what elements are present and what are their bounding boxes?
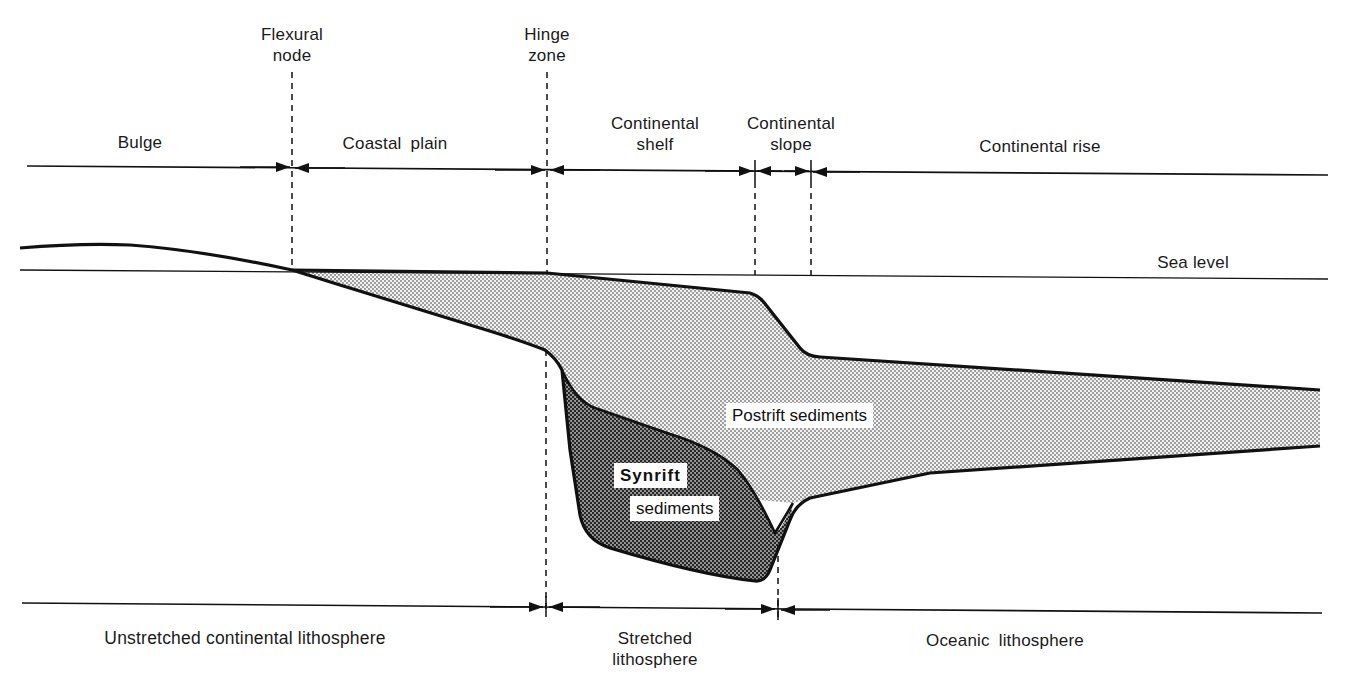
hinge-zone-label-line2: zone xyxy=(517,45,577,66)
synrift-label-line2: sediments xyxy=(630,496,719,521)
sea-level-label: Sea level xyxy=(1148,252,1238,273)
top-zone-line xyxy=(27,166,1328,175)
stretched-lithosphere-line2: lithosphere xyxy=(590,649,720,670)
zone-label-continental-slope: Continental slope xyxy=(726,113,856,155)
zone-label-bulge: Bulge xyxy=(100,132,180,153)
zone-label-coastal-plain: Coastal plain xyxy=(320,133,470,154)
continental-slope-text: Continental slope xyxy=(736,113,846,155)
margin-cross-section-diagram xyxy=(0,0,1348,694)
zone-label-stretched-lithosphere: Stretched lithosphere xyxy=(590,628,720,670)
postrift-sediments-label: Postrift sediments xyxy=(726,403,873,428)
postrift-sediments-area xyxy=(292,270,1320,503)
zone-label-unstretched-lithosphere: Unstretched continental lithosphere xyxy=(100,628,390,649)
zone-label-oceanic-lithosphere: Oceanic lithosphere xyxy=(905,630,1105,651)
zone-label-continental-shelf: Continental shelf xyxy=(590,113,720,155)
flexural-node-label-line1: Flexural xyxy=(252,24,332,45)
synrift-label-line1: Synrift xyxy=(614,463,687,488)
flexural-node-label: Flexural node xyxy=(252,24,332,66)
stretched-lithosphere-line1: Stretched xyxy=(590,628,720,649)
continental-shelf-text: Continental shelf xyxy=(600,113,710,155)
flexural-node-label-line2: node xyxy=(252,45,332,66)
bottom-zone-line xyxy=(22,603,1322,613)
hinge-zone-label: Hinge zone xyxy=(517,24,577,66)
sea-level-line xyxy=(20,270,1328,279)
zone-label-continental-rise: Continental rise xyxy=(950,136,1130,157)
hinge-zone-label-line1: Hinge xyxy=(517,24,577,45)
